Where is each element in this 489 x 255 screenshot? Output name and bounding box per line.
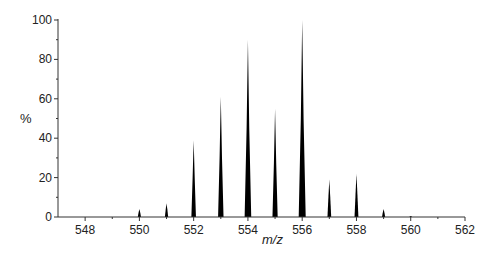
spectrum-peak: [165, 203, 168, 217]
y-tick-label: 80: [39, 52, 53, 66]
x-tick-label: 550: [129, 223, 149, 237]
x-tick-label: 558: [346, 223, 366, 237]
x-tick-label: 548: [75, 223, 95, 237]
spectrum-peak: [327, 180, 331, 217]
y-tick-label: 0: [45, 210, 52, 224]
y-tick-label: 20: [39, 171, 53, 185]
axes: [58, 19, 465, 217]
spectrum-peak: [355, 174, 359, 217]
y-axis-ticks: 020406080100: [32, 13, 58, 224]
x-tick-label: 556: [292, 223, 312, 237]
x-tick-label: 554: [238, 223, 258, 237]
spectrum-peak: [299, 20, 306, 217]
spectrum-peak: [218, 97, 223, 217]
x-tick-label: 552: [184, 223, 204, 237]
x-tick-label: 560: [401, 223, 421, 237]
x-tick-label: 562: [455, 223, 475, 237]
spectrum-peak: [245, 40, 252, 217]
spectrum-peaks: [138, 20, 412, 217]
x-axis-title: m/z: [262, 232, 283, 247]
spectrum-peak: [191, 140, 196, 217]
y-tick-label: 60: [39, 92, 53, 106]
mass-spectrum-chart: 020406080100 548550552554556558560562 % …: [0, 0, 489, 255]
spectrum-peak: [382, 209, 385, 217]
y-axis-title: %: [20, 111, 32, 126]
y-tick-label: 100: [32, 13, 52, 27]
spectrum-peak: [138, 209, 141, 217]
spectrum-peak: [272, 109, 277, 217]
y-tick-label: 40: [39, 131, 53, 145]
